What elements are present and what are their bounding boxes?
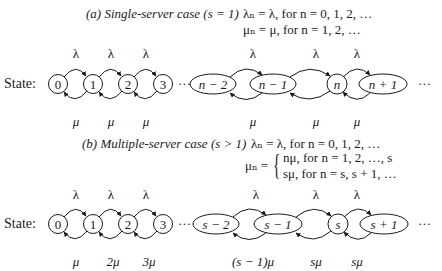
service-arrow-b-5: [344, 232, 371, 239]
svg-text:0: 0: [55, 217, 62, 232]
arrival-arrow-b-4: [296, 209, 331, 217]
arrival-arrow-b-1: [99, 209, 121, 217]
arrival-arrow-a-5: [343, 69, 370, 77]
svg-text:3: 3: [160, 217, 167, 232]
svg-text:n − 1: n − 1: [259, 77, 287, 92]
arrival-arrow-a-4: [290, 69, 330, 77]
svg-text:s − 1: s − 1: [265, 217, 292, 232]
service-arrow-a-1: [99, 91, 122, 99]
arrival-arrow-a-0: [64, 69, 86, 77]
svg-text:n − 2: n − 2: [199, 77, 228, 92]
svg-text:3: 3: [160, 77, 167, 92]
service-arrow-a-5: [343, 92, 370, 99]
svg-text:0: 0: [55, 77, 62, 92]
service-arrow-a-3: [230, 93, 262, 100]
svg-text:1: 1: [90, 77, 97, 92]
svg-text:s + 1: s + 1: [371, 217, 398, 232]
service-arrow-a-0: [64, 91, 87, 99]
service-arrow-a-2: [134, 91, 157, 99]
svg-text:s − 2: s − 2: [203, 217, 230, 232]
service-arrow-b-4: [296, 231, 331, 239]
svg-text:n + 1: n + 1: [369, 77, 397, 92]
arrival-arrow-b-3: [233, 209, 266, 217]
arrival-arrow-b-2: [134, 209, 156, 217]
arrival-arrow-a-3: [230, 69, 262, 77]
svg-text:s: s: [335, 217, 340, 232]
svg-text:2: 2: [125, 217, 132, 232]
svg-text:2: 2: [125, 77, 132, 92]
birth-death-diagrams: 0 1 2 3 n − 2 n − 1 n n + 1 0 1 2 3: [0, 0, 442, 271]
arrival-arrow-b-5: [344, 209, 371, 217]
service-arrow-a-4: [290, 91, 330, 99]
arrival-arrow-a-2: [134, 69, 156, 77]
service-arrow-b-3: [233, 233, 266, 240]
svg-text:1: 1: [90, 217, 97, 232]
service-arrow-b-1: [99, 231, 122, 239]
arrival-arrow-a-1: [99, 69, 121, 77]
svg-text:n: n: [334, 77, 341, 92]
service-arrow-b-0: [64, 231, 87, 239]
arrival-arrow-b-0: [64, 209, 86, 217]
diagram-a: [49, 69, 408, 100]
service-arrow-b-2: [134, 231, 157, 239]
